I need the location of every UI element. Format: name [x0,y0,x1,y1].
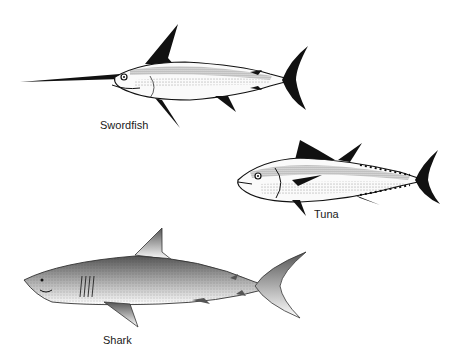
tuna-label: Tuna [314,208,340,220]
shark-drawing [24,228,306,327]
shark-label: Shark [103,334,132,346]
swordfish-label: Swordfish [100,119,148,131]
tuna-drawing [238,140,440,216]
fish-illustration: Swordfish Tuna [0,0,453,354]
swordfish-drawing [20,24,308,128]
